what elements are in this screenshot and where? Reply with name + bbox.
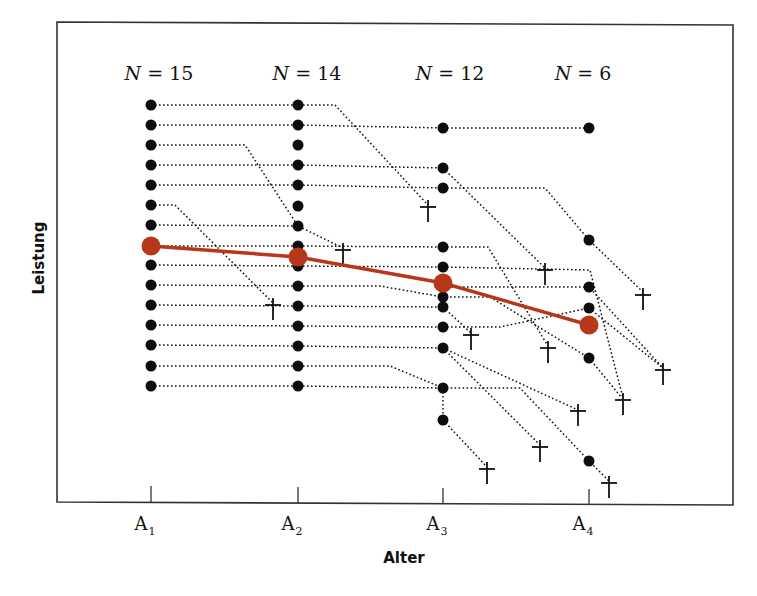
trajectory-9 — [151, 265, 623, 398]
trajectory-11 — [151, 305, 471, 333]
dropout-cross-icon — [601, 476, 617, 498]
dropout-cross-icon — [635, 288, 651, 310]
mean-point-A3 — [434, 274, 453, 293]
data-point-A2-11 — [293, 301, 304, 312]
data-point-A4-5 — [584, 353, 595, 364]
trajectory-17 — [443, 348, 540, 445]
dropout-cross-icon — [570, 404, 586, 426]
y-axis-title: Leistung — [30, 221, 48, 294]
trajectory-4 — [151, 165, 545, 268]
trajectory-15 — [151, 386, 487, 467]
sample-size-label-A2: N = 14 — [272, 62, 342, 84]
mean-point-A2 — [289, 248, 308, 267]
dropout-cross-icon — [655, 363, 671, 385]
data-point-A1-13 — [146, 340, 157, 351]
data-point-A1-9 — [146, 260, 157, 271]
mean-point-A1 — [142, 237, 161, 256]
x-axis-title: Alter — [383, 549, 425, 567]
data-point-A1-14 — [146, 361, 157, 372]
data-point-A3-3 — [438, 183, 449, 194]
data-point-A1-7 — [146, 220, 157, 231]
dropout-cross-icon — [463, 328, 479, 350]
data-point-A2-6 — [293, 201, 304, 212]
data-point-A1-4 — [146, 160, 157, 171]
data-point-A4-2 — [584, 235, 595, 246]
data-point-A2-4 — [293, 160, 304, 171]
dropout-cross-icon — [532, 440, 548, 462]
chart-svg: A1A2A3A4 N = 15N = 14N = 12N = 6 Alter L… — [0, 0, 757, 596]
data-point-A4-1 — [584, 123, 595, 134]
x-tick-label-A1: A1 — [134, 513, 156, 538]
data-point-A3-10 — [438, 343, 449, 354]
data-point-A1-1 — [146, 100, 157, 111]
data-point-A1-11 — [146, 300, 157, 311]
data-point-A3-5 — [438, 262, 449, 273]
dropout-cross-icon — [615, 393, 631, 415]
sample-size-label-A3: N = 12 — [415, 62, 485, 84]
data-point-A2-12 — [293, 321, 304, 332]
data-point-A1-15 — [146, 381, 157, 392]
sample-size-label-A1: N = 15 — [124, 62, 194, 84]
data-point-A1-6 — [146, 200, 157, 211]
data-point-A1-10 — [146, 280, 157, 291]
data-point-A3-8 — [438, 302, 449, 313]
data-point-A4-3 — [584, 282, 595, 293]
trajectory-7 — [151, 225, 343, 248]
data-point-A3-4 — [438, 242, 449, 253]
data-point-A3-9 — [438, 322, 449, 333]
data-point-A2-3 — [293, 140, 304, 151]
data-point-A2-14 — [293, 361, 304, 372]
mean-line — [151, 246, 589, 325]
data-point-A4-6 — [584, 456, 595, 467]
trajectory-10 — [151, 285, 622, 398]
trajectory-13 — [151, 345, 578, 410]
dropout-cross-icon — [540, 341, 556, 363]
plot-frame — [57, 22, 733, 505]
dropout-cross-icon — [420, 200, 436, 222]
data-point-A4-4 — [584, 303, 595, 314]
sample-size-label-A4: N = 6 — [554, 62, 612, 84]
data-point-A3-1 — [438, 123, 449, 134]
data-point-A1-12 — [146, 320, 157, 331]
sample-size-labels: N = 15N = 14N = 12N = 6 — [124, 62, 612, 84]
trajectory-1 — [151, 105, 428, 205]
data-point-A2-1 — [293, 100, 304, 111]
data-point-A2-13 — [293, 341, 304, 352]
trajectory-2 — [151, 125, 589, 128]
data-point-A3-12 — [438, 415, 449, 426]
x-tick-label-A2: A2 — [281, 513, 303, 538]
data-point-A1-3 — [146, 140, 157, 151]
dropout-cross-icon — [335, 243, 351, 265]
x-tick-label-A3: A3 — [426, 513, 448, 538]
dropout-cross-icon — [479, 462, 495, 484]
individual-data-points — [146, 100, 595, 467]
individual-trajectories — [151, 105, 663, 481]
trajectory-14 — [151, 366, 609, 481]
mean-point-A4 — [580, 316, 599, 335]
mean-line-series — [142, 237, 599, 335]
data-point-A2-7 — [293, 221, 304, 232]
data-point-A2-5 — [293, 180, 304, 191]
data-point-A1-2 — [146, 120, 157, 131]
data-point-A3-11 — [438, 383, 449, 394]
data-point-A2-2 — [293, 120, 304, 131]
dropout-cross-icon — [265, 298, 281, 320]
data-point-A2-10 — [293, 281, 304, 292]
dropout-cross-icon — [537, 263, 553, 285]
x-tick-label-A4: A4 — [572, 513, 594, 538]
data-point-A3-7 — [438, 292, 449, 303]
data-point-A2-15 — [293, 381, 304, 392]
x-axis-tick-labels: A1A2A3A4 — [134, 513, 594, 538]
data-point-A1-5 — [146, 180, 157, 191]
data-point-A3-2 — [438, 163, 449, 174]
